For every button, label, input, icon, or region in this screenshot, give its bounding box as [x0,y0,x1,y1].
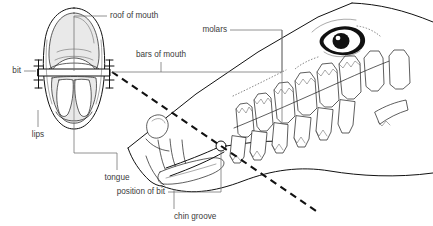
projection-line-upper [112,72,221,146]
eye-highlight [336,36,341,40]
label-bars-of-mouth: bars of mouth [136,50,187,59]
tooth-lower-3 [272,123,288,153]
nostril-shape [147,115,169,138]
tooth-rear-upper [389,50,410,89]
label-roof-of-mouth: roof of mouth [110,11,159,20]
label-bit: bit [12,66,21,75]
label-chin-groove: chin groove [174,212,217,221]
tooth-upper-5 [317,63,339,107]
leader-bars-of-mouth [112,62,282,72]
head-upper-right-line [352,3,433,22]
eye-pupil [333,33,350,49]
label-position-of-bit: position of bit [117,187,166,196]
tooth-lower-6 [338,100,355,133]
tooth-upper-1 [236,103,254,137]
label-lips: lips [32,130,44,139]
projection-line-lower [221,146,316,211]
leader-tongue [74,122,117,170]
horse-mouth-diagram: roof of mouth bars of mouth molars bit l… [0,0,433,226]
upper-lip-line [146,139,169,151]
tooth-upper-7 [364,51,384,91]
tooth-lower-2 [250,131,267,160]
teeth-group [230,50,410,163]
diagram-canvas: roof of mouth bars of mouth molars bit l… [0,0,433,226]
muzzle-front-curve [128,148,162,186]
tooth-rear-lower [375,100,408,124]
label-molars: molars [202,25,227,34]
tooth-upper-3 [274,82,295,123]
eye-lash-dots-lower [295,57,318,69]
label-tongue: tongue [104,173,129,182]
lower-lip-shape [158,158,224,184]
tooth-upper-2 [254,93,273,131]
